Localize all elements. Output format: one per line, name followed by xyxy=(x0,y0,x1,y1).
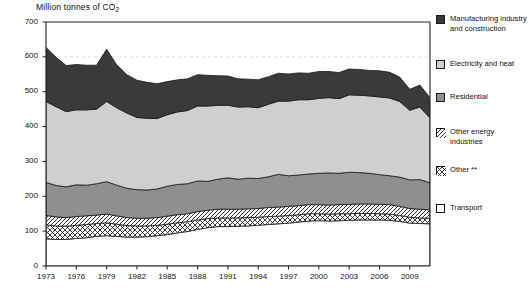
x-tick-label: 1988 xyxy=(183,272,213,281)
y-tick-label: 200 xyxy=(12,191,38,200)
y-tick-label: 400 xyxy=(12,121,38,130)
stacked-area-layers xyxy=(46,47,430,266)
x-tick-label: 1976 xyxy=(61,272,91,281)
x-tick-label: 2003 xyxy=(334,272,364,281)
y-tick-label: 600 xyxy=(12,51,38,60)
y-tick-label: 500 xyxy=(12,86,38,95)
x-tick-label: 1979 xyxy=(92,272,122,281)
x-tick-label: 2000 xyxy=(304,272,334,281)
legend-item-label: Residential xyxy=(450,92,528,102)
legend-item-label: Other energy industries xyxy=(450,127,528,146)
medium-gray-solid-swatch xyxy=(436,93,445,102)
legend-item-label: Manufacturing industry and construction xyxy=(450,14,528,33)
x-tick-label: 1985 xyxy=(152,272,182,281)
x-tick-label: 2009 xyxy=(395,272,425,281)
y-tick-label: 100 xyxy=(12,226,38,235)
x-tick-label: 1982 xyxy=(122,272,152,281)
legend-item-label: Other ** xyxy=(450,165,528,175)
y-tick-label: 0 xyxy=(12,261,38,270)
legend-item-label: Electricity and heat xyxy=(450,59,528,69)
x-tick-label: 1994 xyxy=(243,272,273,281)
y-tick-label: 300 xyxy=(12,156,38,165)
cross-hatch-swatch xyxy=(436,166,445,175)
legend-item-label: Transport xyxy=(450,203,528,213)
x-tick-label: 1997 xyxy=(274,272,304,281)
x-tick-label: 2006 xyxy=(364,272,394,281)
x-tick-label: 1973 xyxy=(31,272,61,281)
y-tick-label: 700 xyxy=(12,17,38,26)
white-solid-swatch xyxy=(436,204,445,213)
light-gray-solid-swatch xyxy=(436,60,445,69)
diagonal-hatch-swatch xyxy=(436,128,445,137)
x-tick-label: 1991 xyxy=(213,272,243,281)
dark-solid-swatch xyxy=(436,15,445,24)
